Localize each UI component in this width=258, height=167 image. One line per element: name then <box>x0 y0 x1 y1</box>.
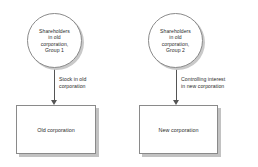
diagram-canvas: Shareholders in old corporation, Group 1… <box>0 0 258 167</box>
node-old-corporation[interactable]: Old corporation <box>16 105 96 154</box>
node-shareholders-group-2[interactable]: Shareholders in old corporation, Group 2 <box>148 13 203 68</box>
arrow-shaft <box>176 66 177 101</box>
edge-label-controlling-interest-in-new-corporation: Controlling interest in new corporation <box>181 76 225 90</box>
node-new-corporation-label: New corporation <box>158 127 198 133</box>
arrow-shaft <box>54 66 55 101</box>
node-shareholders-group-1[interactable]: Shareholders in old corporation, Group 1 <box>27 13 82 68</box>
edge-label-stock-in-old-corporation: Stock in old corporation <box>59 76 86 90</box>
node-shareholders-group-2-label: Shareholders in old corporation, Group 2 <box>158 28 193 54</box>
node-new-corporation[interactable]: New corporation <box>139 105 218 154</box>
node-shareholders-group-1-label: Shareholders in old corporation, Group 1 <box>37 28 72 54</box>
node-old-corporation-label: Old corporation <box>37 127 75 133</box>
